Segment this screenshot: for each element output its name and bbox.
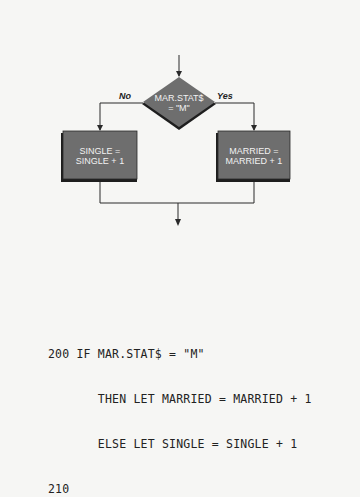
married-line-1: MARRIED = [229,146,278,156]
single-line-1: SINGLE = [80,146,121,156]
code-line-then: THEN LET MARRIED = MARRIED + 1 [48,392,312,407]
yes-label: Yes [217,91,233,101]
merge-connector [100,182,254,203]
basic-code-listing: 200 IF MAR.STAT$ = "M" THEN LET MARRIED … [48,317,312,497]
decision-label: MAR.STAT$ = "M" [149,93,209,113]
code-line-else: ELSE LET SINGLE = SINGLE + 1 [48,437,312,452]
single-line-2: SINGLE + 1 [76,156,124,166]
yes-branch-connector [215,103,254,130]
flowchart-diagram [0,0,360,240]
decision-line-1: MAR.STAT$ [154,93,203,103]
married-process-label: MARRIED = MARRIED + 1 [218,146,290,166]
decision-line-2: = "M" [168,103,190,113]
no-label: No [119,91,131,101]
single-process-label: SINGLE = SINGLE + 1 [63,146,137,166]
code-line-200: 200 IF MAR.STAT$ = "M" [48,347,312,362]
no-branch-connector [100,103,143,130]
married-line-2: MARRIED + 1 [226,156,283,166]
code-line-210: 210 [48,482,312,497]
